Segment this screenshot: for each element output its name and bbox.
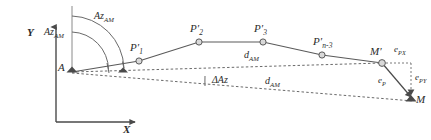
node-label-pn3-text: P [313, 35, 320, 47]
geodesic-line-a-m [72, 73, 413, 101]
error-label-p: eP [378, 76, 386, 87]
distance-label-upper-sub: AM [249, 55, 259, 62]
distance-label-lower-sub: AM [270, 81, 280, 88]
error-triangle [382, 63, 411, 97]
node-label-mprime-prime: ′ [379, 45, 381, 57]
error-label-p-sub: P [382, 81, 386, 87]
azimuth-label-inner: AzAM [44, 27, 64, 40]
node-label-mprime-text: M [370, 45, 379, 57]
node-marker-p3 [260, 39, 266, 45]
azimuth-label-outer: AzAM [94, 11, 114, 24]
node-marker-m [406, 95, 417, 102]
azimuth-label-inner-sub: AM [54, 32, 64, 39]
node-label-p1-sub: 1 [139, 47, 143, 56]
azimuth-label-inner-text: Az [44, 26, 54, 37]
node-marker-p2 [196, 39, 202, 45]
node-label-mprime: M′ [370, 46, 382, 57]
node-label-p1: P′1 [130, 42, 143, 56]
node-label-m: M [416, 94, 425, 105]
node-label-pn3: P′n-3 [313, 36, 333, 50]
node-label-a: A [58, 62, 65, 73]
geodetic-traverse-diagram: Y X A AzAM AzAM P′1 P′2 P′3 P′n-3 M′ M d… [0, 0, 431, 140]
error-label-py: ePY [415, 73, 427, 84]
axis-label-y: Y [27, 27, 34, 38]
node-marker-pn3 [319, 52, 325, 58]
axis-label-x: X [123, 124, 130, 135]
azimuth-label-outer-sub: AM [104, 16, 114, 23]
node-label-p1-text: P [130, 41, 137, 53]
distance-label-lower: dAM [265, 76, 280, 89]
node-label-pn3-sub: n-3 [322, 41, 333, 50]
node-marker-p1 [136, 58, 142, 64]
node-marker-a [67, 67, 78, 73]
distance-label-upper: dAM [244, 50, 259, 63]
error-resultant-line [382, 63, 411, 97]
azimuth-label-outer-text: Az [94, 10, 104, 21]
node-marker-a-tick [118, 68, 128, 73]
error-label-px-sub: PX [398, 50, 406, 56]
error-label-py-sub: PY [419, 78, 427, 84]
node-label-p3: P′3 [254, 23, 267, 37]
node-label-p3-sub: 3 [263, 28, 267, 37]
node-marker-mprime [379, 60, 386, 67]
error-label-px: ePX [394, 45, 406, 56]
node-label-p2-sub: 2 [199, 28, 203, 37]
delta-azimuth-label: ΔAz [212, 75, 228, 85]
node-label-p3-text: P [254, 22, 261, 34]
node-label-p2: P′2 [190, 23, 203, 37]
node-label-p2-text: P [190, 22, 197, 34]
